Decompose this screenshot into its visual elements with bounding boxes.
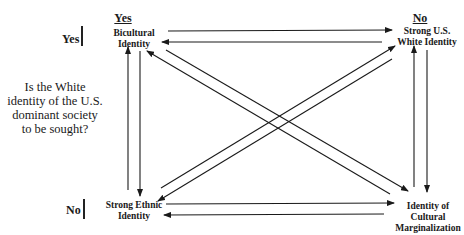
arrows-layer [0, 0, 464, 235]
arrow-marginalization-to-ethnic [164, 214, 384, 215]
arrow-ethnic-to-marginalization [166, 203, 394, 204]
arrow-bicultural-to-white [168, 30, 392, 31]
arrow-white-to-ethnic [158, 59, 392, 201]
